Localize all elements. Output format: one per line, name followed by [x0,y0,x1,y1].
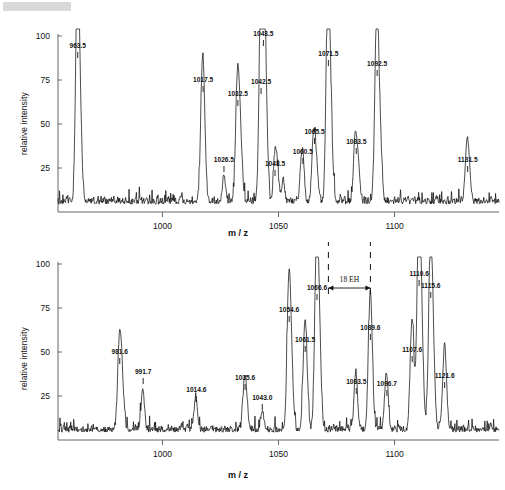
spectrum-panel-top: 100755025100010501100963.51017.51026.510… [0,14,505,242]
peak-label: 1092.5 [367,60,388,67]
peak-label: 1071.5 [318,50,339,57]
spectrum-panel-bottom: 100755025100010501100981.6991.71014.6103… [0,242,505,490]
peak-label: 1096.7 [377,380,398,387]
peak-label: 1065.5 [304,128,325,135]
peak-label: 1017.5 [193,76,214,83]
peak-label: 1043.0 [252,394,273,401]
peak-label: 1042.5 [251,78,272,85]
svg-text:1100: 1100 [385,449,404,459]
x-axis-label-bottom: m / z [228,470,248,480]
peak-label: 1131.5 [458,156,478,163]
svg-text:1000: 1000 [153,221,172,231]
mass-spectrum-plot-top: 100755025100010501100963.51017.51026.510… [0,14,505,242]
svg-text:100: 100 [36,31,50,41]
annotation-label-18eh: 18 EH [340,275,360,284]
peak-label: 1083.5 [346,138,367,145]
x-axis-label-top: m / z [228,228,248,238]
svg-text:50: 50 [41,119,51,129]
svg-text:1050: 1050 [269,449,288,459]
peak-label: 1054.6 [279,306,300,313]
y-axis-label-bottom: relative intensity [19,327,29,390]
peak-label: 1035.6 [235,374,256,381]
mass-spectrum-plot-bottom: 100755025100010501100981.6991.71014.6103… [0,242,505,490]
y-axis-label-top: relative intensity [19,92,29,155]
redacted-header-bar [3,2,71,11]
svg-text:50: 50 [41,347,51,357]
svg-text:1100: 1100 [385,221,404,231]
svg-text:75: 75 [41,75,51,85]
peak-label: 1060.5 [293,148,314,155]
svg-text:25: 25 [41,391,51,401]
peak-label: 1061.5 [295,336,316,343]
span-annotation-18eh: 18 EH [328,242,370,294]
peak-label: 1026.5 [214,156,235,163]
peak-label: 981.6 [111,348,128,355]
svg-text:75: 75 [41,303,51,313]
peak-label: 1014.6 [186,386,207,393]
peak-label: 1121.6 [435,372,455,379]
peak-label: 1115.6 [421,282,441,289]
peak-label: 1107.6 [402,346,422,353]
svg-text:100: 100 [36,259,50,269]
peak-label: 1043.5 [253,30,274,37]
peak-label: 1110.6 [409,270,429,277]
peak-label: 1083.5 [346,378,367,385]
peak-label: 1032.5 [228,90,249,97]
peak-label: 1066.6 [307,284,328,291]
peak-label: 991.7 [135,368,152,375]
svg-text:1050: 1050 [269,221,288,231]
svg-text:1000: 1000 [153,449,172,459]
peak-label: 963.5 [69,42,86,49]
peak-label: 1048.5 [265,160,286,167]
peak-label: 1089.6 [360,324,381,331]
svg-text:25: 25 [41,163,51,173]
